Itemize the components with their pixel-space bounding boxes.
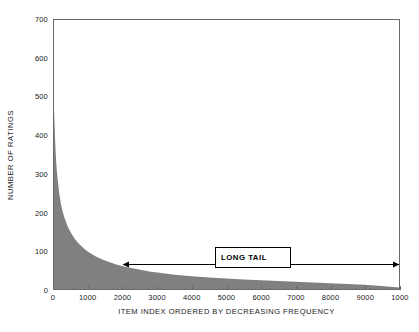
x-tick-label: 1000 xyxy=(79,293,97,302)
y-tick-label: 200 xyxy=(35,208,48,217)
x-tick-label: 2000 xyxy=(114,293,132,302)
x-tick-label: 9000 xyxy=(357,293,375,302)
y-axis-title: NUMBER OF RATINGS xyxy=(6,110,15,200)
x-tick-mark xyxy=(365,286,366,290)
x-tick-mark xyxy=(331,286,332,290)
x-tick-label: 8000 xyxy=(322,293,340,302)
x-axis-title: ITEM INDEX ORDERED BY DECREASING FREQUEN… xyxy=(53,307,400,316)
x-tick-mark xyxy=(261,286,262,290)
x-tick-label: 4000 xyxy=(183,293,201,302)
chart-figure: 700 600 500 400 300 200 100 0 0 1000 200… xyxy=(0,0,419,332)
x-tick-label: 3000 xyxy=(148,293,166,302)
x-tick-mark xyxy=(53,286,54,290)
y-tick-label: 700 xyxy=(35,15,48,24)
y-tick-label: 300 xyxy=(35,169,48,178)
long-tail-annotation-box: LONG TAIL xyxy=(215,247,291,268)
x-tick-label: 7000 xyxy=(287,293,305,302)
y-tick-label: 500 xyxy=(35,92,48,101)
x-tick-mark xyxy=(122,286,123,290)
x-tick-mark xyxy=(88,286,89,290)
x-tick-mark xyxy=(192,286,193,290)
x-tick-mark xyxy=(296,286,297,290)
y-tick-label: 100 xyxy=(35,247,48,256)
x-tick-label: 0 xyxy=(51,293,55,302)
x-tick-mark xyxy=(157,286,158,290)
x-tick-mark xyxy=(400,286,401,290)
x-tick-label: 6000 xyxy=(252,293,270,302)
x-tick-label: 5000 xyxy=(218,293,236,302)
long-tail-annotation-label: LONG TAIL xyxy=(216,253,267,262)
x-tick-label: 1000 xyxy=(391,293,409,302)
y-tick-label: 0 xyxy=(44,286,48,295)
y-tick-label: 600 xyxy=(35,53,48,62)
y-tick-label: 400 xyxy=(35,131,48,140)
x-tick-mark xyxy=(227,286,228,290)
